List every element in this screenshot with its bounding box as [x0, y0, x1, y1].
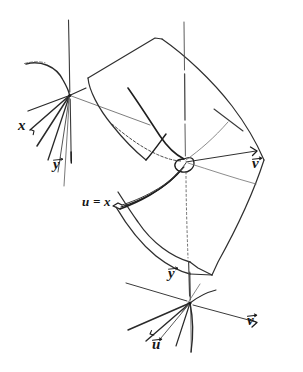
- sheet-crease-upper-right: [186, 122, 228, 160]
- label-target-v-upper-wrap: v: [252, 156, 259, 171]
- sheet-edge-top-right: [162, 39, 264, 160]
- label-source-y: y: [53, 157, 60, 172]
- label-target-y: y: [168, 266, 175, 281]
- source-x-arrow: [31, 130, 35, 135]
- label-target-y-text: y: [168, 265, 175, 281]
- source-coordinate-frame: [25, 20, 151, 186]
- fold-upper-branch: [146, 134, 166, 160]
- sheet-crease-right: [188, 163, 256, 184]
- figure-canvas: x y u = x v y: [0, 0, 303, 372]
- target-v-axis-left: [126, 283, 187, 301]
- source-fan-line-3: [37, 96, 70, 147]
- sheet-edge-right: [212, 160, 264, 275]
- label-source-x-text: x: [18, 117, 26, 133]
- label-target-y-wrap: y: [168, 266, 175, 281]
- upper-v-axis-cross: [214, 109, 243, 131]
- label-target-v-upper: v: [252, 156, 259, 171]
- diagram-drawing: [0, 0, 303, 372]
- label-target-u-text: u: [152, 336, 161, 352]
- sheet-edge-bottom-right: [190, 262, 212, 275]
- upper-v-axis-line: [186, 151, 256, 162]
- target-coordinate-frame: [126, 272, 257, 352]
- label-target-v-upper-text: v: [252, 155, 259, 171]
- target-fan-line-3: [161, 303, 190, 338]
- upper-v-axis: [186, 109, 257, 162]
- fold-curve-lower-2: [121, 167, 184, 207]
- source-y-axis: [69, 20, 70, 92]
- source-fan-line-7: [70, 88, 87, 96]
- label-target-v-lower-wrap: v: [247, 313, 254, 328]
- source-projection-ray: [70, 96, 150, 126]
- target-origin-point: [188, 301, 191, 304]
- source-fan-line-1: [28, 96, 70, 112]
- label-source-x-text-wrap: x: [18, 118, 26, 133]
- target-curve-branch-upper: [190, 290, 216, 303]
- source-origin-point: [68, 94, 71, 97]
- label-target-u: u: [152, 337, 161, 352]
- target-u-arrow: [150, 331, 154, 335]
- surface-axis-top: [184, 22, 185, 70]
- fold-upper-hidden: [112, 124, 182, 161]
- sheet-lower-fold-edge-join: [190, 274, 212, 275]
- label-target-u-wrap: u: [152, 337, 161, 352]
- folded-surface-sheet: [88, 38, 264, 275]
- target-y-axis-upper: [190, 272, 191, 300]
- label-fold-map: u = x: [82, 195, 111, 208]
- label-source-x: x: [18, 118, 26, 133]
- label-source-y-text: y: [53, 156, 60, 172]
- source-curve-hook: [26, 63, 70, 95]
- label-target-v-lower: v: [247, 313, 254, 328]
- label-source-y-text-wrap: y: [53, 157, 60, 172]
- sheet-edge-left: [88, 78, 146, 160]
- sheet-edge-top-left: [88, 38, 162, 78]
- surface-axis-below: [186, 172, 188, 258]
- label-target-v-lower-text: v: [247, 312, 254, 328]
- target-fan-line-1: [128, 303, 190, 330]
- fold-curve-lower: [120, 171, 180, 209]
- label-fold-map-text: u = x: [82, 194, 111, 209]
